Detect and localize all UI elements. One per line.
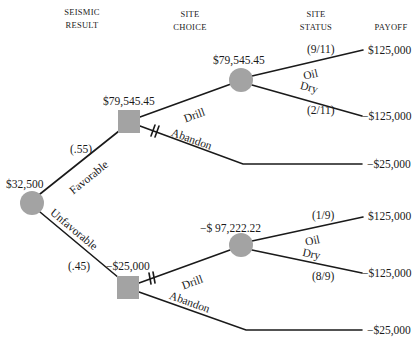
header-text: SITE xyxy=(160,8,220,21)
decision-node-favorable xyxy=(118,110,140,133)
header-payoff: PAYOFF xyxy=(366,21,416,34)
blocked-mark xyxy=(149,273,151,284)
payoff-fav-dry: −$125,000 xyxy=(362,110,412,122)
header-site-status: SITE STATUS xyxy=(286,8,346,34)
value-chance-fav-drill: $79,545.45 xyxy=(213,54,265,66)
header-seismic-result: SEISMIC RESULT xyxy=(50,6,114,32)
header-text: PAYOFF xyxy=(366,21,416,34)
decision-node-unfavorable xyxy=(117,276,139,299)
value-decision-favorable: $79,545.45 xyxy=(103,95,155,107)
chance-node-unfav-drill xyxy=(229,233,253,257)
value-chance-unfav-drill: −$ 97,222.22 xyxy=(200,222,261,234)
header-text: SITE xyxy=(286,8,346,21)
payoff-unfav-oil: $125,000 xyxy=(368,210,411,222)
payoff-fav-abandon: −$25,000 xyxy=(367,158,411,170)
prob-fav-oil: (9/11) xyxy=(307,43,335,55)
header-text: CHOICE xyxy=(160,21,220,34)
chance-node-fav-drill xyxy=(229,68,253,92)
prob-favorable: (.55) xyxy=(70,143,92,155)
decision-tree-diagram: SEISMIC RESULT SITE CHOICE SITE STATUS P… xyxy=(0,0,417,340)
value-decision-unfavorable: −$25,000 xyxy=(106,260,150,272)
blocked-mark xyxy=(153,272,155,283)
payoff-unfav-dry: −$125,000 xyxy=(362,267,412,279)
chance-node-root xyxy=(20,191,44,215)
payoff-unfav-abandon: −$25,000 xyxy=(367,324,411,336)
value-root: $32,500 xyxy=(6,178,43,190)
tree-graphics xyxy=(0,0,417,340)
prob-unfav-oil: (1/9) xyxy=(312,209,334,221)
header-text: RESULT xyxy=(50,19,114,32)
header-text: SEISMIC xyxy=(50,6,114,19)
header-site-choice: SITE CHOICE xyxy=(160,8,220,34)
prob-unfav-dry: (8/9) xyxy=(312,270,334,282)
payoff-fav-oil: $125,000 xyxy=(368,44,411,56)
prob-fav-dry: (2/11) xyxy=(307,104,335,116)
header-text: STATUS xyxy=(286,21,346,34)
prob-unfavorable: (.45) xyxy=(68,260,90,272)
